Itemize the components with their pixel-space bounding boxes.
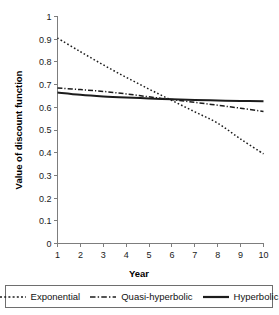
x-tick-label: 3 [101,250,106,260]
x-tick-label: 1 [55,250,60,260]
discount-function-chart-figure: 00.10.20.30.40.50.60.70.80.91 1234567891… [0,0,279,315]
y-tick-label: 0.4 [39,148,52,158]
legend-swatch-dashed-icon [0,292,26,302]
y-tick-label: 0.2 [39,194,52,204]
legend-item-exponential: Exponential [0,291,80,302]
y-tick-label: 0.8 [39,57,52,67]
y-tick-label: 0.7 [39,80,52,90]
legend-item-quasi-hyperbolic: Quasi-hyperbolic [90,291,192,302]
legend-label: Exponential [31,291,81,302]
axis-tick-marks [54,17,264,248]
y-tick-label: 0.1 [39,216,52,226]
chart-legend: ExponentialQuasi-hyperbolicHyperbolic [5,285,273,308]
legend-swatch-dash-dot-icon [90,292,116,302]
x-tick-label: 4 [124,250,129,260]
x-tick-label: 6 [169,250,174,260]
y-axis-tick-labels: 00.10.20.30.40.50.60.70.80.91 [39,12,52,249]
y-tick-label: 0 [46,239,51,249]
legend-label: Hyperbolic [234,291,279,302]
x-axis-tick-labels: 12345678910 [55,250,269,260]
y-tick-label: 0.3 [39,171,52,181]
y-axis-title: Value of discount function [13,70,24,189]
legend-swatch-solid-icon [203,292,229,302]
chart-plot-area: 00.10.20.30.40.50.60.70.80.91 1234567891… [0,0,279,282]
y-tick-label: 0.9 [39,35,52,45]
legend-item-hyperbolic: Hyperbolic [203,291,279,302]
x-axis-title: Year [129,268,149,279]
x-tick-label: 5 [147,250,152,260]
x-tick-label: 10 [258,250,268,260]
legend-label: Quasi-hyperbolic [121,291,192,302]
y-tick-label: 0.5 [39,125,52,135]
x-tick-label: 8 [215,250,220,260]
x-tick-label: 9 [238,250,243,260]
y-tick-label: 1 [46,12,51,22]
x-tick-label: 7 [192,250,197,260]
series-line-hyperbolic [58,93,264,102]
x-tick-label: 2 [78,250,83,260]
y-tick-label: 0.6 [39,103,52,113]
